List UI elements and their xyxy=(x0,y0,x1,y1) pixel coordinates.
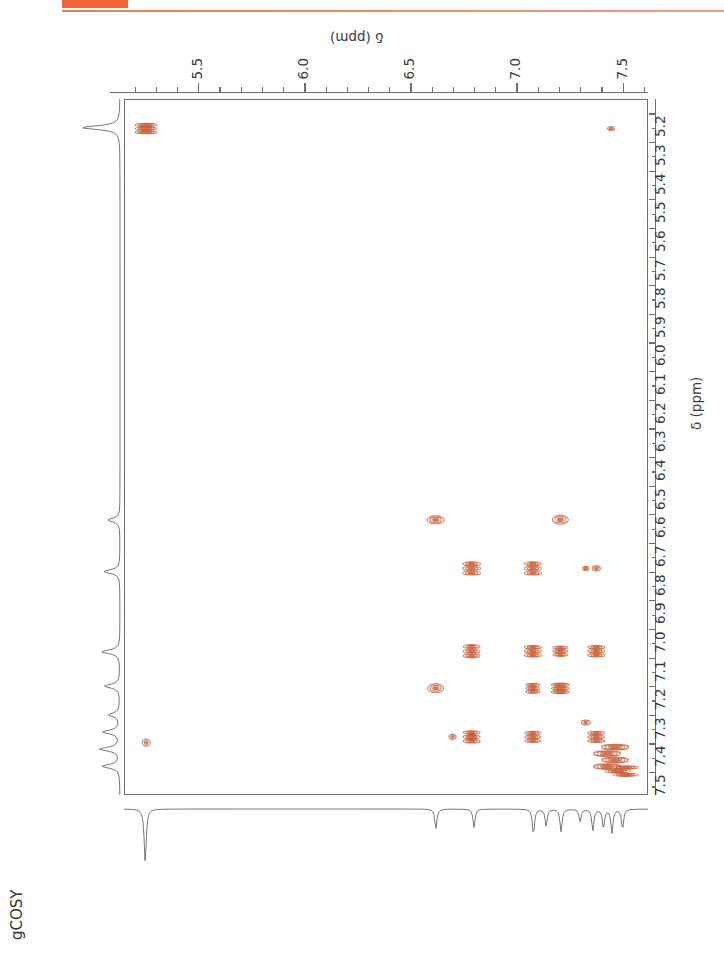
top-axis-minor-tick xyxy=(241,87,242,92)
orange-header-block xyxy=(62,0,128,8)
right-axis-title: δ (ppm) xyxy=(688,377,704,430)
cross-peak-c0 xyxy=(463,645,480,649)
cross-peak-c0 xyxy=(525,731,541,734)
cross-peak-c1 xyxy=(525,735,541,738)
diagonal-peak-c1 xyxy=(135,127,157,130)
cross-peak-c2 xyxy=(526,690,540,693)
orange-header-rule xyxy=(62,10,724,12)
right-axis-major-tick xyxy=(649,285,656,286)
top-axis-minor-tick xyxy=(474,87,475,92)
right-axis-tick-label: 6.5 xyxy=(652,488,668,509)
diagonal-peak-c0 xyxy=(602,744,629,750)
cross-peak-c2 xyxy=(463,654,480,658)
top-axis-minor-tick xyxy=(283,87,284,92)
top-axis-tick-label: 7.5 xyxy=(614,58,630,79)
diagonal-peak-c2 xyxy=(524,653,541,656)
top-axis-minor-tick xyxy=(135,87,136,92)
top-axis-minor-tick xyxy=(219,87,220,92)
f1-projection-path xyxy=(83,99,120,795)
top-axis-line xyxy=(124,92,648,93)
diagonal-peak-c0 xyxy=(551,683,569,686)
top-axis-minor-tick xyxy=(326,87,327,92)
right-axis-tick-label: 7.5 xyxy=(652,775,668,796)
spectrum-plot-frame[interactable] xyxy=(124,99,648,795)
cross-peak-c2 xyxy=(524,571,541,575)
right-axis-tick-label: 7.4 xyxy=(652,746,668,767)
top-axis-major-tick xyxy=(516,83,517,92)
right-axis-major-tick xyxy=(649,457,656,458)
cross-peak-c1 xyxy=(526,687,540,690)
right-axis-major-tick xyxy=(649,629,656,630)
top-axis-tick-label: 6.5 xyxy=(401,58,417,79)
right-axis-major-tick xyxy=(649,342,656,343)
right-axis-tick-label: 7.3 xyxy=(652,717,668,738)
top-axis-minor-tick xyxy=(347,87,348,92)
right-axis-major-tick xyxy=(649,428,656,429)
cross-peak xyxy=(428,684,444,693)
right-axis-major-tick xyxy=(649,486,656,487)
right-axis-tick-label: 6.8 xyxy=(652,574,668,595)
cross-peak-c2 xyxy=(553,653,568,656)
diagonal-peak-c1 xyxy=(594,751,621,757)
cross-peak-c2 xyxy=(588,653,605,656)
cross-peak xyxy=(608,127,615,131)
right-axis-major-tick xyxy=(649,543,656,544)
cross-peak xyxy=(583,566,589,570)
cross-peak-c0 xyxy=(553,646,568,649)
right-axis-major-tick xyxy=(649,371,656,372)
right-axis-major-tick xyxy=(649,314,656,315)
diagonal-peak-c2 xyxy=(602,757,629,763)
top-axis-minor-tick xyxy=(559,87,560,92)
diagonal-peak-c1 xyxy=(524,650,541,653)
top-axis-tick-label: 6.0 xyxy=(295,58,311,79)
top-axis-minor-tick xyxy=(580,87,581,92)
right-axis-major-tick xyxy=(649,171,656,172)
cross-peak xyxy=(142,739,150,746)
cross-peak-c1 xyxy=(553,650,568,653)
right-axis-major-tick xyxy=(649,199,656,200)
top-axis-minor-tick xyxy=(177,87,178,92)
diagonal-peak-c2 xyxy=(135,131,157,134)
top-axis-minor-tick xyxy=(368,87,369,92)
top-axis-minor-tick xyxy=(389,87,390,92)
right-axis-major-tick xyxy=(649,743,656,744)
right-axis-major-tick xyxy=(649,600,656,601)
right-axis-major-tick xyxy=(649,514,656,515)
top-axis-major-tick xyxy=(410,83,411,92)
diagonal-peak-c1 xyxy=(463,566,481,570)
diagonal-peak-c1 xyxy=(605,770,631,773)
top-axis-minor-tick xyxy=(538,87,539,92)
right-axis-major-tick xyxy=(649,772,656,773)
right-axis-tick-label: 5.2 xyxy=(652,116,668,137)
cross-peak-c1 xyxy=(463,649,480,653)
right-axis-tick-label: 5.5 xyxy=(652,202,668,223)
cross-peak xyxy=(552,515,568,524)
diagonal-peak-c2 xyxy=(551,690,569,693)
right-axis-tick-label: 6.9 xyxy=(652,603,668,624)
right-axis-tick-label: 6.2 xyxy=(652,402,668,423)
right-axis-major-tick xyxy=(649,257,656,258)
right-axis-major-tick xyxy=(649,572,656,573)
cross-peak-c2 xyxy=(525,739,541,742)
right-axis-tick-label: 7.0 xyxy=(652,631,668,652)
f2-projection-trace xyxy=(124,806,648,868)
cross-peak-layer xyxy=(125,100,647,794)
right-axis-major-tick xyxy=(649,658,656,659)
right-axis-major-tick xyxy=(649,113,656,114)
top-axis-tick-label: 7.0 xyxy=(507,58,523,79)
diagonal-peak-c0 xyxy=(588,731,605,734)
diagonal-peak-c0 xyxy=(463,562,481,566)
top-axis-minor-tick xyxy=(262,87,263,92)
top-axis-tick-label: 5.5 xyxy=(189,58,205,79)
right-axis-major-tick xyxy=(649,228,656,229)
right-axis-major-tick xyxy=(649,142,656,143)
top-axis-minor-tick xyxy=(601,87,602,92)
right-axis-major-tick xyxy=(649,715,656,716)
right-axis-tick-label: 5.8 xyxy=(652,288,668,309)
experiment-label: gCOSY xyxy=(8,890,26,941)
diagonal-peak-c1 xyxy=(588,735,605,738)
right-axis-tick-label: 5.9 xyxy=(652,316,668,337)
f2-projection-path xyxy=(124,809,648,861)
right-axis-tick-label: 7.1 xyxy=(652,660,668,681)
right-axis-tick-label: 5.7 xyxy=(652,259,668,280)
